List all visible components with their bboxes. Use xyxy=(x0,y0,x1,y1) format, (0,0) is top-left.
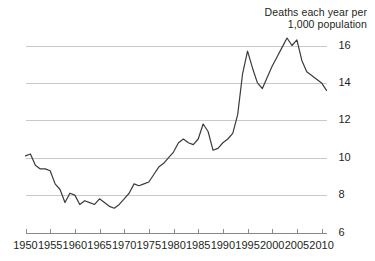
x-tick-marks-group xyxy=(27,229,323,234)
gridlines-group xyxy=(26,47,327,234)
y-axis-tick-label: 10 xyxy=(339,151,351,163)
chart-root: Deaths each year per1,000 population 681… xyxy=(0,0,375,261)
y-axis-tick-label: 12 xyxy=(339,113,351,125)
x-axis-tick-label: 2010 xyxy=(307,239,337,251)
y-axis-tick-label: 14 xyxy=(339,76,351,88)
y-axis-tick-label: 16 xyxy=(339,39,351,51)
death-rate-line xyxy=(26,38,327,208)
y-axis-tick-label: 8 xyxy=(339,188,345,200)
y-axis-tick-label: 6 xyxy=(339,226,345,238)
line-chart-plot xyxy=(0,0,375,261)
